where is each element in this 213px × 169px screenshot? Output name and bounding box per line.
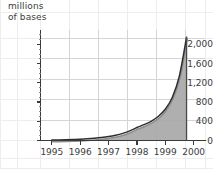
x-tick-labels: 199519961997199819992000 xyxy=(0,0,213,169)
x-tick-label: 2000 xyxy=(177,148,211,157)
